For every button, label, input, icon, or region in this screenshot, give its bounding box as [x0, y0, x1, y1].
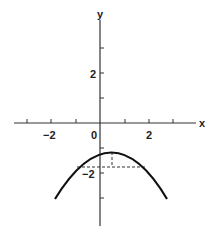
y-tick-label-neg2: −2 — [82, 168, 95, 180]
x-axis-label: x — [199, 117, 206, 129]
x-tick-label-neg2: −2 — [43, 129, 56, 141]
y-axis-label: y — [97, 8, 104, 20]
x-tick-label-2: 2 — [146, 129, 152, 141]
y-tick-label-2: 2 — [90, 68, 96, 80]
chart-canvas: y x −2 0 2 2 −2 — [0, 0, 220, 238]
parabola-curve — [55, 153, 167, 200]
x-tick-label-0: 0 — [91, 129, 97, 141]
